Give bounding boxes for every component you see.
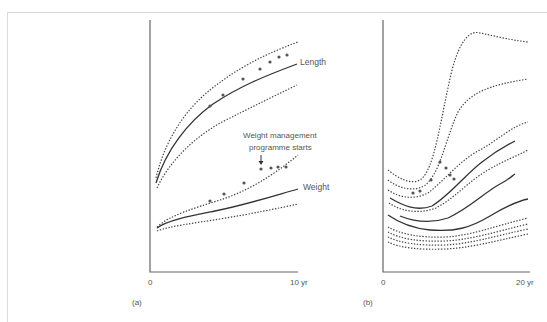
annotation-line2: programme starts bbox=[249, 143, 312, 152]
weight-median bbox=[157, 189, 298, 228]
centile-dotted-8 bbox=[388, 234, 528, 249]
centile-dotted-4 bbox=[389, 150, 528, 211]
panel-a-x-start: 0 bbox=[148, 278, 152, 287]
weight-upper-centile bbox=[157, 155, 298, 227]
panel-a-label: (a) bbox=[132, 298, 142, 307]
length-median bbox=[156, 64, 297, 183]
length-curve-label: Length bbox=[300, 57, 326, 67]
weight-curve-label: Weight bbox=[303, 182, 329, 192]
panel-b-label: (b) bbox=[363, 298, 373, 307]
centile-dotted-1 bbox=[388, 32, 528, 181]
annotation-line1: Weight management bbox=[243, 131, 317, 140]
centile-solid-3 bbox=[388, 199, 528, 230]
panel-b-x-start: 0 bbox=[381, 278, 385, 287]
growth-charts bbox=[0, 0, 547, 322]
annotation-arrow-icon bbox=[259, 155, 264, 165]
centile-solid-2 bbox=[400, 174, 515, 222]
panel-b-data-points bbox=[411, 160, 455, 194]
panel-b-x-end: 20 yr bbox=[516, 278, 534, 287]
centile-solid-1 bbox=[390, 141, 515, 208]
panel-b-chart bbox=[383, 20, 530, 272]
panel-a-x-end: 10 yr bbox=[290, 278, 308, 287]
centile-dotted-3 bbox=[388, 122, 528, 197]
centile-dotted-7 bbox=[388, 229, 528, 245]
centile-dotted-2 bbox=[388, 79, 528, 189]
weight-data-points bbox=[208, 165, 287, 202]
